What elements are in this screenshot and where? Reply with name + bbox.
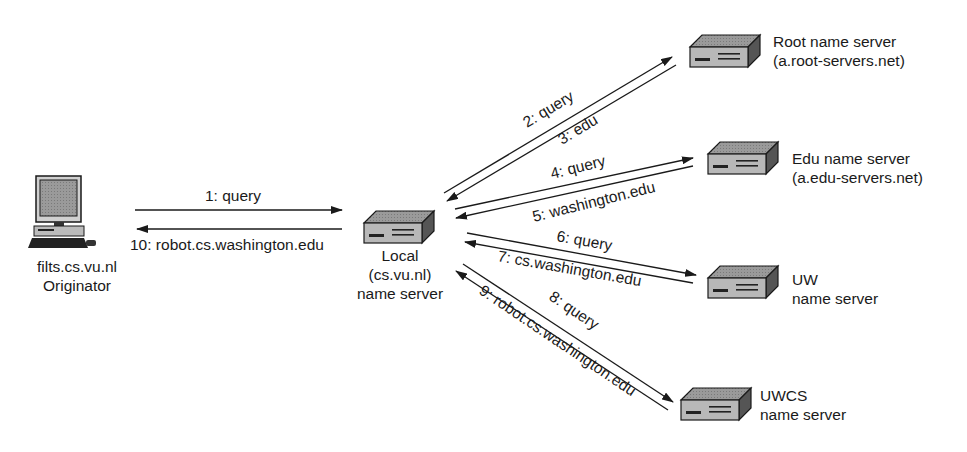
label-step-10: 10: robot.cs.washington.edu bbox=[130, 235, 324, 254]
uw-server-line1: UW bbox=[792, 270, 878, 289]
label-step-1: 1: query bbox=[205, 186, 261, 205]
label-step-5: 5: washington.edu bbox=[531, 178, 657, 225]
local-server-line3: name server bbox=[340, 284, 460, 303]
uwcs-server-line2: name server bbox=[760, 405, 846, 424]
edu-server-label: Edu name server (a.edu-servers.net) bbox=[792, 149, 923, 187]
root-server-icon bbox=[690, 35, 760, 67]
originator-host: filts.cs.vu.nl bbox=[22, 257, 132, 276]
root-server-line1: Root name server bbox=[773, 32, 905, 51]
label-step-3: 3: edu bbox=[555, 111, 601, 148]
uw-server-line2: name server bbox=[792, 289, 878, 308]
local-server-label: Local (cs.vu.nl) name server bbox=[340, 246, 460, 303]
uwcs-server-label: UWCS name server bbox=[760, 386, 846, 424]
root-server-label: Root name server (a.root-servers.net) bbox=[773, 32, 905, 70]
uwcs-server-icon bbox=[681, 388, 751, 420]
label-step-6: 6: query bbox=[555, 227, 613, 254]
originator-role: Originator bbox=[22, 276, 132, 295]
local-server-line1: Local bbox=[340, 246, 460, 265]
uw-server-icon bbox=[708, 266, 778, 298]
arrow-8-query bbox=[463, 264, 673, 402]
originator-label: filts.cs.vu.nl Originator bbox=[22, 257, 132, 295]
uwcs-server-line1: UWCS bbox=[760, 386, 846, 405]
local-server-line2: (cs.vu.nl) bbox=[340, 265, 460, 284]
label-step-8: 8: query bbox=[546, 287, 602, 333]
uw-server-label: UW name server bbox=[792, 270, 878, 308]
edu-server-line2: (a.edu-servers.net) bbox=[792, 168, 923, 187]
label-step-4: 4: query bbox=[549, 152, 608, 182]
local-server-icon bbox=[364, 211, 434, 243]
label-step-7: 7: cs.washington.edu bbox=[496, 247, 642, 289]
root-server-line2: (a.root-servers.net) bbox=[773, 51, 905, 70]
edu-server-line1: Edu name server bbox=[792, 149, 923, 168]
edu-server-icon bbox=[708, 142, 778, 174]
computer-icon bbox=[28, 176, 96, 248]
